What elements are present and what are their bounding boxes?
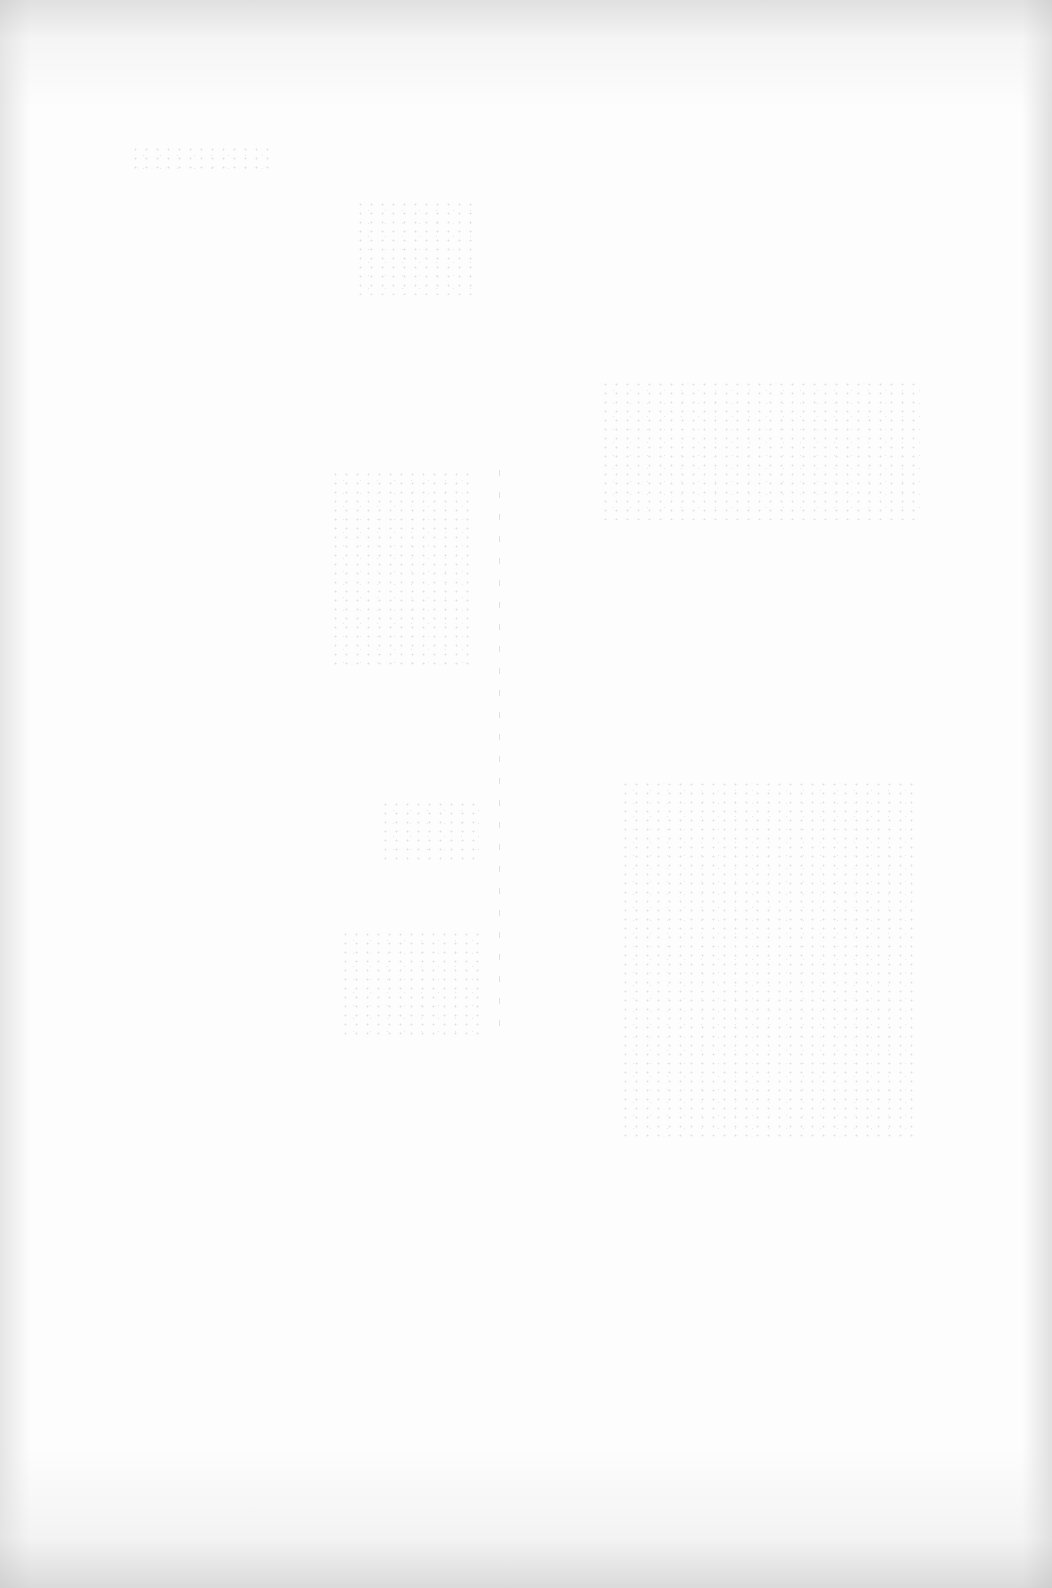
blank-scanned-page	[0, 0, 1052, 1588]
scan-edge-shading	[0, 0, 1052, 1588]
bleed-through-noise	[330, 470, 470, 670]
bleed-through-noise	[620, 780, 920, 1140]
bleed-through-noise	[355, 200, 480, 295]
bleed-through-noise	[340, 930, 480, 1040]
page-fold-line	[499, 470, 500, 1040]
bleed-through-noise	[130, 145, 270, 170]
bleed-through-noise	[380, 800, 480, 860]
bleed-through-noise	[600, 380, 920, 520]
